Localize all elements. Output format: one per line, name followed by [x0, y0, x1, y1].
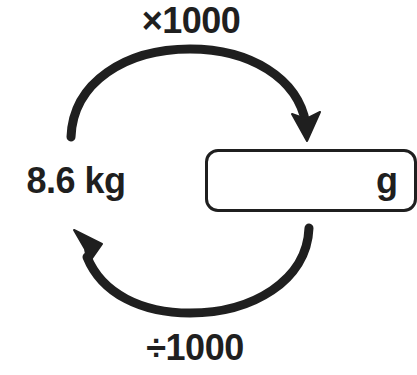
- curved-arrow-left-icon: [74, 228, 309, 313]
- target-unit-label: g: [376, 163, 398, 199]
- operation-label-multiply: ×1000: [0, 3, 382, 39]
- answer-input-box[interactable]: g: [205, 149, 417, 212]
- curved-arrow-right-icon: [71, 49, 320, 141]
- operation-label-divide: ÷1000: [0, 330, 390, 366]
- source-quantity-label: 8.6 kg: [0, 163, 152, 199]
